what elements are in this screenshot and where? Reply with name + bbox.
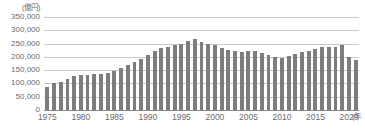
bar	[320, 47, 324, 110]
bar	[193, 39, 197, 110]
bar-slot	[340, 17, 344, 110]
y-tick-label: 250,000	[11, 40, 40, 48]
bar	[59, 82, 63, 110]
bar-slot	[313, 17, 317, 110]
bar-slot	[213, 17, 217, 110]
bar	[307, 51, 311, 110]
x-axis-tick-labels: 1975198019851990199520002005201020152020	[44, 110, 359, 131]
bar-slot	[45, 17, 49, 110]
x-tick-label: 1995	[172, 113, 191, 122]
bar	[334, 47, 338, 110]
y-tick-label: 150,000	[11, 66, 40, 74]
x-tick-label: 1985	[105, 113, 124, 122]
bar-slot	[193, 17, 197, 110]
bar	[133, 62, 137, 110]
bar-slot	[179, 17, 183, 110]
bar	[260, 53, 264, 110]
bar-slot	[153, 17, 157, 110]
y-tick-label: 350,000	[11, 13, 40, 21]
bar	[92, 74, 96, 110]
bar	[66, 79, 70, 110]
bar-slot	[52, 17, 56, 110]
x-tick-label: 2000	[205, 113, 224, 122]
bar	[287, 56, 291, 110]
bar-slot	[126, 17, 130, 110]
bar	[159, 48, 163, 110]
bar	[233, 51, 237, 110]
bar	[267, 55, 271, 110]
bar	[139, 59, 143, 110]
bar-slot	[79, 17, 83, 110]
bar-slot	[273, 17, 277, 110]
bar-slot	[253, 17, 257, 110]
bar	[280, 58, 284, 110]
x-tick-label: 1990	[138, 113, 157, 122]
bar	[79, 75, 83, 110]
bar-slot	[267, 17, 271, 110]
bar	[200, 42, 204, 110]
bar	[253, 51, 257, 110]
x-axis-unit-label: (年	[352, 113, 362, 121]
bar-slot	[86, 17, 90, 110]
bar	[186, 41, 190, 110]
y-tick-label: 100,000	[11, 79, 40, 87]
y-tick-label: 200,000	[11, 53, 40, 61]
bar-slot	[139, 17, 143, 110]
bar	[340, 45, 344, 110]
bar-slot	[260, 17, 264, 110]
bar-slot	[240, 17, 244, 110]
bar-slot	[59, 17, 63, 110]
bar-slot	[133, 17, 137, 110]
bar	[354, 60, 358, 110]
bar-slot	[146, 17, 150, 110]
bar	[327, 47, 331, 111]
bar-slot	[166, 17, 170, 110]
bar-slot	[293, 17, 297, 110]
bar	[99, 74, 103, 110]
bar	[146, 55, 150, 110]
bar	[72, 76, 76, 110]
bar	[347, 57, 351, 110]
bar	[86, 75, 90, 110]
bar-slot	[72, 17, 76, 110]
y-axis-tick-labels: 350,000300,000250,000200,000150,000100,0…	[0, 17, 40, 110]
bar	[153, 51, 157, 110]
bar-slot	[206, 17, 210, 110]
bar-slot	[246, 17, 250, 110]
y-tick-label: 50,000	[16, 93, 40, 101]
bar-series	[44, 17, 359, 110]
bar-slot	[334, 17, 338, 110]
bar	[126, 65, 130, 110]
bar	[45, 87, 49, 110]
x-tick-label: 2015	[306, 113, 325, 122]
bar-slot	[186, 17, 190, 110]
x-tick-label: 1980	[71, 113, 90, 122]
bar-slot	[92, 17, 96, 110]
x-tick-label: 2005	[239, 113, 258, 122]
bar	[179, 44, 183, 110]
bar	[240, 52, 244, 110]
bar-slot	[119, 17, 123, 110]
bar	[52, 83, 56, 110]
bar	[313, 49, 317, 110]
bar-slot	[347, 17, 351, 110]
bar-slot	[280, 17, 284, 110]
bar-slot	[106, 17, 110, 110]
bar	[112, 71, 116, 110]
bar-slot	[159, 17, 163, 110]
bar	[300, 52, 304, 110]
x-tick-label: 2010	[272, 113, 291, 122]
bar	[106, 73, 110, 110]
bar	[246, 51, 250, 110]
bar-slot	[99, 17, 103, 110]
bar	[273, 57, 277, 110]
bar-slot	[220, 17, 224, 110]
bar	[293, 54, 297, 110]
y-tick-label: 300,000	[11, 26, 40, 34]
bar-slot	[200, 17, 204, 110]
bar	[173, 45, 177, 110]
bar	[226, 50, 230, 110]
bar-chart: (億円) 350,000300,000250,000200,000150,000…	[0, 0, 365, 131]
bar-slot	[307, 17, 311, 110]
bar-slot	[112, 17, 116, 110]
